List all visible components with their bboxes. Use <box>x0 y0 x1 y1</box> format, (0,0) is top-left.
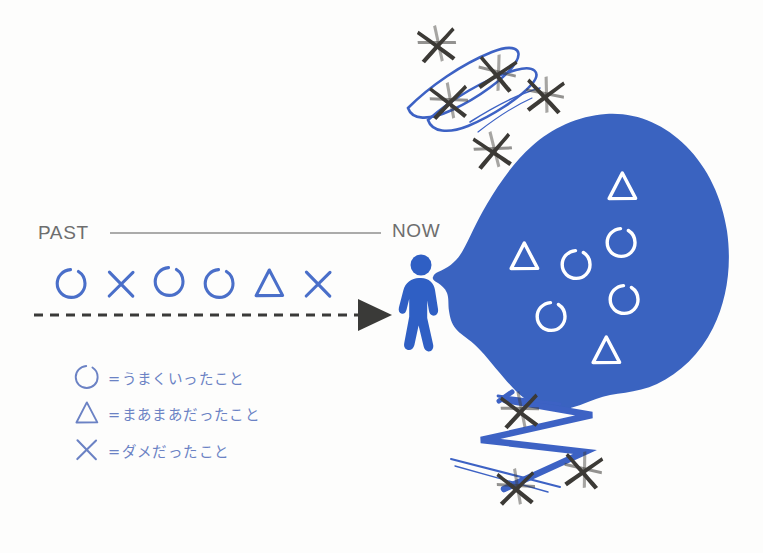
timeline-symbol-cross <box>306 272 330 296</box>
future-blob <box>433 114 729 410</box>
figure-body <box>399 278 438 351</box>
arrowhead <box>358 299 392 331</box>
legend-item-so-so: =まあまあだったこと <box>72 400 260 426</box>
legend-label: =うまくいったこと <box>108 367 245 388</box>
diagram-canvas <box>0 0 763 553</box>
circle-icon <box>72 364 102 390</box>
timeline-symbol-circle <box>155 268 183 296</box>
diagram-page: PAST NOW =うまくいったこと =まあまあだったこと =ダメだったこと <box>0 0 763 553</box>
blob-shape <box>433 114 729 410</box>
timeline-symbol-cross <box>109 272 133 296</box>
figure-head <box>411 255 432 276</box>
progress-arrow <box>34 299 392 331</box>
legend-label: =ダメだったこと <box>108 440 229 461</box>
timeline-symbol-circle <box>57 270 85 298</box>
past-label: PAST <box>38 222 89 244</box>
cross-icon <box>72 437 102 463</box>
legend-item-was-bad: =ダメだったこと <box>72 437 229 463</box>
discard-cross-icon <box>416 23 458 64</box>
triangle-icon <box>72 400 102 426</box>
discard-cross-icon <box>472 129 515 171</box>
discard-cross-icon <box>476 52 519 94</box>
now-label: NOW <box>392 220 440 242</box>
legend-label: =まあまあだったこと <box>108 403 260 424</box>
bottom-discard-cluster <box>451 389 604 506</box>
timeline-symbol-triangle <box>256 270 283 296</box>
timeline-symbol-row <box>57 268 330 298</box>
discard-cross-icon <box>525 74 566 114</box>
walking-person-pictogram <box>399 255 438 352</box>
timeline-symbol-circle <box>205 270 233 298</box>
top-scribble-loops <box>408 48 540 132</box>
legend-item-went-well: =うまくいったこと <box>72 364 245 390</box>
